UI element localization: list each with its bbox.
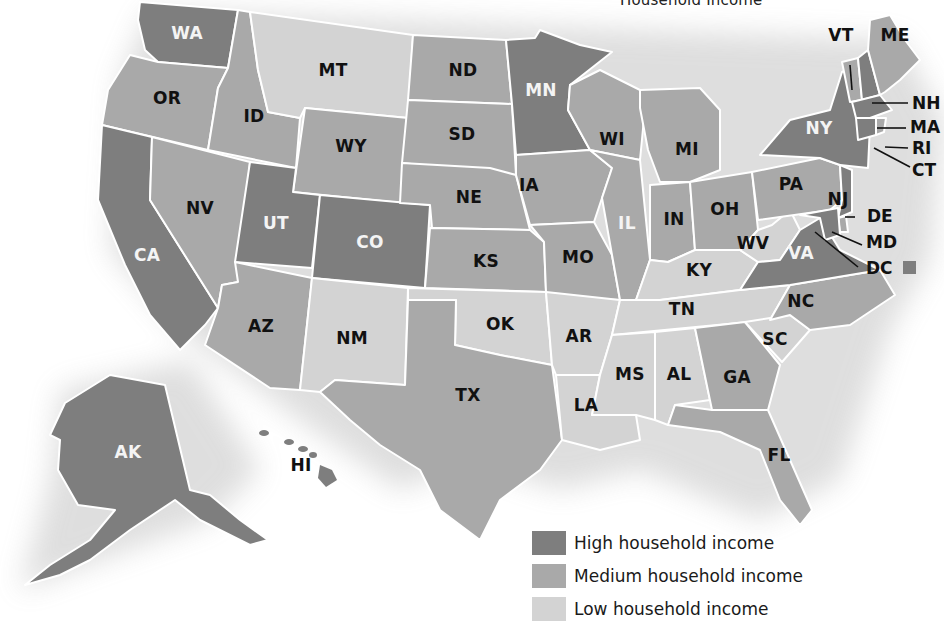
state-label-AR: AR: [566, 326, 593, 346]
legend-item-medium: Medium household income: [532, 559, 803, 592]
state-label-MA: MA: [910, 117, 940, 137]
state-label-RI: RI: [912, 138, 931, 158]
state-label-VT: VT: [828, 25, 853, 45]
state-label-IA: IA: [519, 175, 539, 195]
state-label-NH: NH: [912, 93, 940, 113]
state-label-DC: DC: [866, 258, 893, 278]
state-label-CA: CA: [134, 245, 160, 265]
state-label-LA: LA: [574, 395, 599, 415]
state-label-OH: OH: [710, 199, 739, 219]
state-label-VA: VA: [788, 243, 814, 263]
state-label-ND: ND: [449, 60, 478, 80]
us-household-income-map: Household Income: [0, 0, 944, 622]
state-label-MT: MT: [318, 60, 347, 80]
legend-label-high: High household income: [574, 533, 774, 553]
state-label-AL: AL: [667, 364, 692, 384]
state-label-SC: SC: [762, 329, 787, 349]
state-label-WV: WV: [737, 233, 770, 253]
state-label-NM: NM: [336, 328, 368, 348]
state-label-OR: OR: [153, 88, 181, 108]
legend: High household income Medium household i…: [532, 526, 803, 622]
state-label-OK: OK: [486, 314, 514, 334]
state-label-AZ: AZ: [248, 316, 274, 336]
state-label-UT: UT: [263, 213, 289, 233]
legend-label-medium: Medium household income: [574, 566, 803, 586]
state-label-ID: ID: [243, 106, 264, 126]
state-label-CO: CO: [356, 232, 384, 252]
state-label-NC: NC: [787, 291, 814, 311]
state-label-MD: MD: [866, 232, 897, 252]
state-label-WI: WI: [599, 129, 625, 149]
state-label-CT: CT: [912, 160, 936, 180]
legend-swatch-low: [532, 597, 566, 621]
state-label-NV: NV: [186, 198, 214, 218]
legend-swatch-medium: [532, 564, 566, 588]
state-label-KY: KY: [686, 260, 712, 280]
state-label-WA: WA: [171, 23, 203, 43]
state-label-HI: HI: [290, 455, 311, 475]
legend-item-low: Low household income: [532, 592, 803, 622]
state-label-TN: TN: [669, 299, 695, 319]
state-label-IL: IL: [618, 213, 636, 233]
state-label-DE: DE: [867, 206, 893, 226]
state-RI[interactable]: [876, 118, 886, 135]
legend-label-low: Low household income: [574, 599, 769, 619]
state-label-ME: ME: [880, 25, 909, 45]
state-label-AK: AK: [115, 442, 142, 462]
state-label-IN: IN: [663, 209, 684, 229]
state-label-GA: GA: [723, 367, 751, 387]
state-label-NJ: NJ: [827, 189, 848, 209]
state-label-FL: FL: [767, 445, 790, 465]
state-label-MI: MI: [675, 139, 699, 159]
state-CT[interactable]: [856, 118, 876, 140]
state-label-MO: MO: [562, 247, 594, 267]
state-label-NE: NE: [456, 187, 482, 207]
state-label-SD: SD: [449, 124, 476, 144]
state-label-PA: PA: [779, 174, 804, 194]
state-label-MN: MN: [525, 80, 557, 100]
state-label-WY: WY: [335, 136, 367, 156]
state-label-KS: KS: [473, 251, 499, 271]
state-label-TX: TX: [455, 385, 480, 405]
state-label-MS: MS: [615, 364, 645, 384]
dc-color-swatch: [903, 261, 916, 274]
legend-item-high: High household income: [532, 526, 803, 559]
state-label-NY: NY: [805, 118, 832, 138]
legend-swatch-high: [532, 531, 566, 555]
